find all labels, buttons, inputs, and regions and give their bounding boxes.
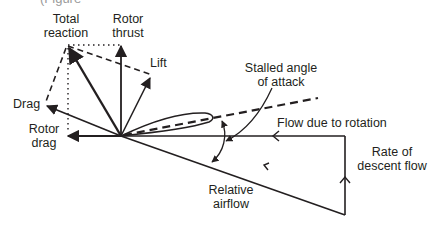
label-drag: Drag [13, 97, 40, 111]
label-rate-of-descent-flow: Rate of descent flow [354, 145, 430, 173]
label-line: reaction [41, 26, 91, 40]
label-line: Rate of [354, 145, 430, 159]
label-line: Relative [203, 183, 259, 197]
label-rotor-thrust: Rotor thrust [106, 12, 150, 40]
label-line: airflow [203, 197, 259, 211]
airfoil-shape [121, 113, 213, 136]
label-relative-airflow: Relative airflow [203, 183, 259, 211]
dashed-parallelogram-lines [45, 46, 152, 104]
label-line: descent flow [354, 159, 430, 173]
label-line: Rotor [106, 12, 150, 26]
label-total-reaction: Total reaction [41, 12, 91, 40]
label-flow-due-to-rotation: Flow due to rotation [277, 116, 387, 130]
angle-of-attack-arc [212, 121, 225, 162]
label-line: drag [24, 136, 64, 150]
label-stalled-angle: Stalled angle of attack [236, 61, 326, 89]
lift-arrow [121, 78, 150, 136]
label-line: Total [41, 12, 91, 26]
relative-airflow-arrowhead [264, 163, 269, 170]
label-rotor-drag: Rotor drag [24, 122, 64, 150]
label-line: Rotor [24, 122, 64, 136]
total-reaction-arrow [69, 48, 121, 136]
label-line: Stalled angle [236, 61, 326, 75]
label-line: thrust [106, 26, 150, 40]
label-line: of attack [236, 75, 326, 89]
label-lift: Lift [150, 56, 167, 70]
